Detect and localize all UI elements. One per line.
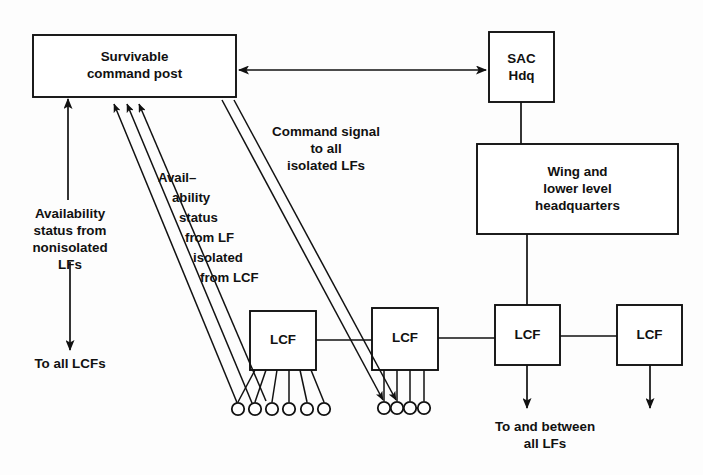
label-availability-isolated-line: status bbox=[158, 208, 298, 228]
lf-site-circle[interactable] bbox=[318, 403, 330, 415]
lf-site-circle[interactable] bbox=[391, 402, 403, 414]
lf-site-circle[interactable] bbox=[266, 403, 278, 415]
label-command-signal: Command signal to all isolated LFs bbox=[246, 123, 406, 174]
label-availability-isolated-line: ability bbox=[158, 188, 298, 208]
node-label-lcf-3: LCF bbox=[495, 326, 560, 343]
lf-site-circle[interactable] bbox=[301, 403, 313, 415]
lf-group-lcf2 bbox=[378, 370, 430, 414]
node-label-lcf-2: LCF bbox=[372, 329, 438, 346]
label-availability-isolated-line: Avail– bbox=[158, 168, 298, 188]
lf-site-circle[interactable] bbox=[418, 402, 430, 414]
label-availability-isolated: Avail– ability status from LF isolated f… bbox=[158, 168, 298, 288]
lf-group-lcf1 bbox=[232, 370, 330, 415]
lf-site-circle[interactable] bbox=[283, 403, 295, 415]
node-label-survivable-command-post: Survivable command post bbox=[33, 48, 236, 82]
lf-site-circle[interactable] bbox=[249, 403, 261, 415]
node-label-sac-hdq: SAC Hdq bbox=[489, 50, 554, 84]
label-to-all-lcfs: To all LCFs bbox=[6, 355, 134, 372]
label-availability-isolated-line: from LCF bbox=[158, 268, 298, 288]
diagram-canvas: Survivable command post SAC Hdq Wing and… bbox=[0, 0, 703, 475]
label-availability-isolated-line: isolated bbox=[158, 248, 298, 268]
label-availability-nonisolated: Availability status from nonisolated LFs bbox=[6, 205, 134, 273]
label-to-and-between-all-lfs: To and between all LFs bbox=[455, 418, 635, 452]
node-label-lcf-1: LCF bbox=[250, 331, 316, 348]
lf-site-circle[interactable] bbox=[404, 402, 416, 414]
node-label-lcf-4: LCF bbox=[617, 326, 682, 343]
lf-site-circle[interactable] bbox=[232, 403, 244, 415]
label-availability-isolated-line: from LF bbox=[158, 228, 298, 248]
lf-site-circle[interactable] bbox=[378, 402, 390, 414]
node-label-wing-headquarters: Wing and lower level headquarters bbox=[477, 163, 678, 214]
